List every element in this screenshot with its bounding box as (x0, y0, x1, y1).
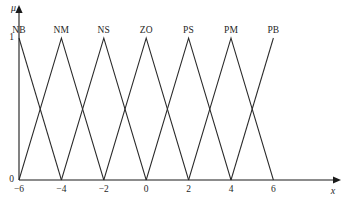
fuzzy-set-label-pb: PB (267, 26, 279, 36)
y-tick-label-0: 0 (9, 175, 14, 185)
y-axis-name-label: μ (11, 3, 16, 13)
x-tick-label-2: −2 (99, 185, 109, 195)
x-axis-arrowhead (333, 176, 341, 183)
x-tick-label-0: −6 (14, 185, 24, 195)
membership-curve-zo (104, 38, 189, 180)
x-tick-label-4: 2 (186, 185, 191, 195)
membership-curve-nm (19, 38, 104, 180)
x-axis-name-label: x (331, 186, 335, 196)
x-tick-label-5: 4 (229, 185, 234, 195)
fuzzy-set-label-ps: PS (183, 26, 194, 36)
fuzzy-set-label-zo: ZO (140, 26, 153, 36)
y-tick-label-1: 1 (9, 33, 14, 43)
membership-curve-ns (61, 38, 146, 180)
fuzzy-set-label-ns: NS (98, 26, 111, 36)
membership-plot-svg (0, 0, 347, 208)
fuzzy-membership-function-figure: μ x NBNMNSZOPSPMPB −6−4−20246 01 (0, 0, 347, 208)
x-tick-label-3: 0 (144, 185, 149, 195)
x-tick-label-1: −4 (56, 185, 66, 195)
membership-function-lines (19, 38, 273, 180)
y-axis-arrowhead (15, 5, 22, 13)
membership-curve-ps (146, 38, 231, 180)
fuzzy-set-label-pm: PM (224, 26, 238, 36)
membership-curve-pm (189, 38, 274, 180)
fuzzy-set-label-nm: NM (54, 26, 70, 36)
x-tick-label-6: 6 (271, 185, 276, 195)
